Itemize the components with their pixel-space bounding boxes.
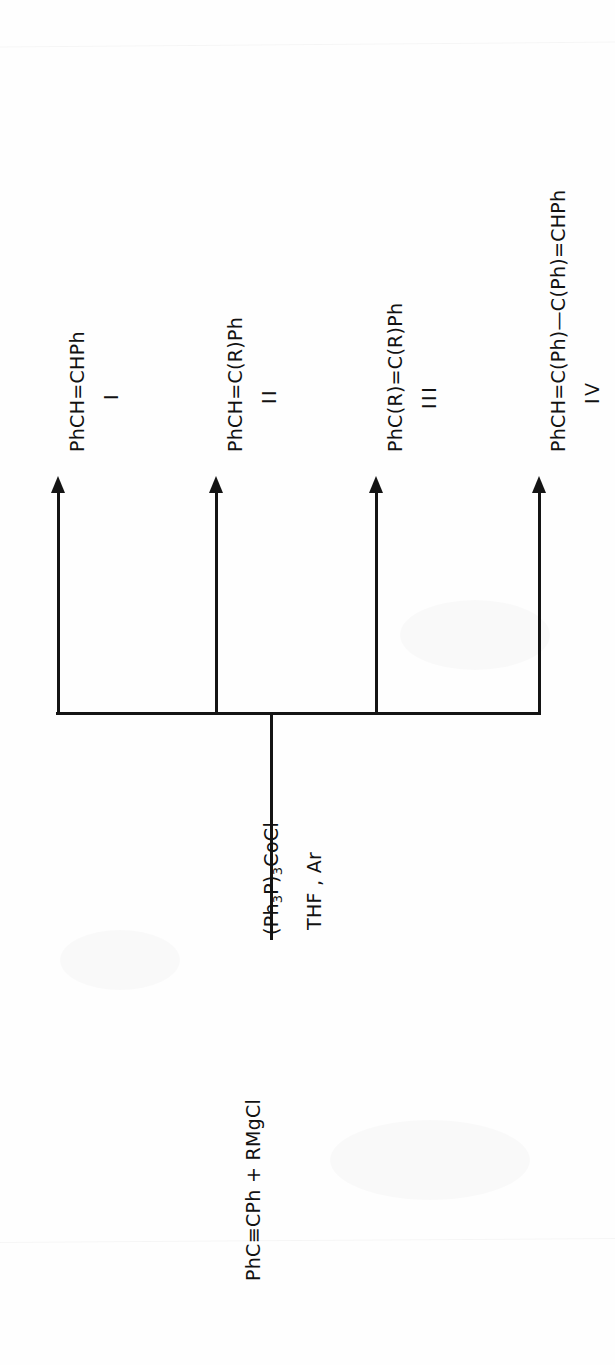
product-arrow-stem-4 — [538, 492, 541, 714]
substrate-label: PhC≡CPh + RMgCl — [242, 1099, 264, 1281]
product-formula-3: PhC(R)=C(R)Ph — [384, 303, 406, 452]
product-numeral-3: III — [418, 385, 440, 409]
product-arrow-stem-3 — [375, 492, 378, 714]
scan-artifact-blotch-a — [60, 930, 180, 990]
product-formula-2: PhCH=C(R)Ph — [224, 317, 246, 452]
product-arrow-stem-1 — [57, 492, 60, 714]
scan-artifact-blotch-c — [330, 1120, 530, 1200]
scan-artifact-streak-top — [0, 42, 615, 48]
solvent-label: THF , Ar — [303, 852, 325, 930]
product-arrowhead-2 — [209, 476, 223, 493]
product-arrowhead-3 — [369, 476, 383, 493]
scanned-page: PhC≡CPh + RMgCl (Ph3P)3CoCl THF , Ar PhC… — [0, 0, 615, 1365]
product-arrowhead-4 — [532, 476, 546, 493]
product-arrow-stem-2 — [215, 492, 218, 714]
catalyst-subscript-2: 3 — [270, 867, 285, 876]
product-numeral-4: IV — [581, 380, 603, 404]
catalyst-subscript-1: 3 — [270, 895, 285, 904]
product-formula-1: PhCH=CHPh — [66, 331, 88, 452]
product-arrowhead-1 — [51, 476, 65, 493]
catalyst-label: (Ph3P)3CoCl — [260, 822, 285, 935]
scan-artifact-blotch-b — [400, 600, 550, 670]
scan-artifact-streak-bottom — [0, 1238, 615, 1243]
product-formula-4: PhCH=C(Ph)—C(Ph)=CHPh — [547, 190, 569, 452]
branch-bar — [56, 712, 541, 715]
product-numeral-2: II — [258, 388, 280, 404]
product-numeral-1: I — [100, 392, 122, 400]
